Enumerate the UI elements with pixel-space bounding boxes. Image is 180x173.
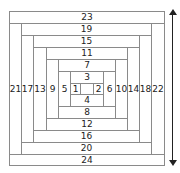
- strip-15: 15: [33, 35, 140, 48]
- log-cabin-diagram: 123456789101112131415161718192021222324: [0, 0, 180, 173]
- height-arrow-shaft: [172, 14, 173, 162]
- strip-11: 11: [46, 47, 128, 60]
- strip-17: 17: [21, 35, 34, 143]
- strip-13: 13: [33, 47, 47, 131]
- strip-24: 24: [9, 154, 165, 166]
- arrow-down-icon: [169, 160, 177, 166]
- strip-5: 5: [58, 71, 71, 107]
- arrow-up-icon: [169, 9, 177, 15]
- strip-21: 21: [9, 23, 22, 155]
- strip-22: 22: [151, 23, 165, 155]
- strip-9: 9: [46, 59, 59, 119]
- strip-23: 23: [9, 11, 165, 24]
- strip-7: 7: [58, 59, 116, 72]
- strip-3: 3: [70, 71, 104, 84]
- strip-19: 19: [21, 23, 152, 36]
